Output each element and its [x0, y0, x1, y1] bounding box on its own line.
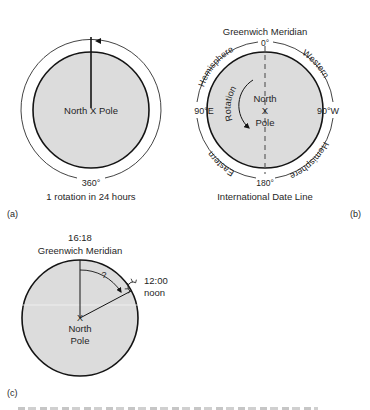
north-pole-label: North X Pole: [64, 105, 118, 116]
pole-mark: X: [262, 105, 269, 116]
pole-label: Pole: [255, 117, 274, 128]
rotation-caption: 1 rotation in 24 hours: [46, 191, 136, 202]
panel-c-diagram: ? 16:18 Greenwich Meridian 12:00 noon X …: [7, 232, 168, 398]
international-date-line-label: International Date Line: [217, 191, 313, 202]
noon-label: noon: [144, 287, 165, 298]
degrees-360-label: 360°: [82, 178, 101, 188]
greenwich-meridian-label: Greenwich Meridian: [38, 245, 122, 256]
north-label: North: [68, 323, 91, 334]
arrowhead-icon: [95, 38, 101, 44]
panel-label-a: (a): [7, 209, 18, 219]
pole-mark: X: [77, 313, 83, 323]
unknown-angle-label: ?: [101, 270, 106, 280]
degree-90w-label: 90°W: [317, 106, 340, 116]
panel-label-c: (c): [7, 388, 18, 398]
panel-a-diagram: North X Pole 360° 1 rotation in 24 hours…: [7, 37, 161, 219]
greenwich-time-label: 16:18: [68, 232, 92, 243]
panel-label-b: (b): [350, 209, 361, 219]
degree-90e-label: 90°E: [194, 106, 214, 116]
noon-time-label: 12:00: [144, 275, 168, 286]
degree-0-label: 0°: [261, 38, 269, 48]
north-label: North: [253, 93, 276, 104]
pole-label: Pole: [70, 335, 89, 346]
panel-b-diagram: Greenwich Meridian 0° 90°E 90°W 180° Int…: [194, 26, 361, 219]
figure-canvas: North X Pole 360° 1 rotation in 24 hours…: [0, 0, 370, 410]
degree-180-label: 180°: [256, 178, 274, 188]
greenwich-meridian-label: Greenwich Meridian: [223, 26, 307, 37]
clipped-figure-caption: [18, 404, 318, 410]
